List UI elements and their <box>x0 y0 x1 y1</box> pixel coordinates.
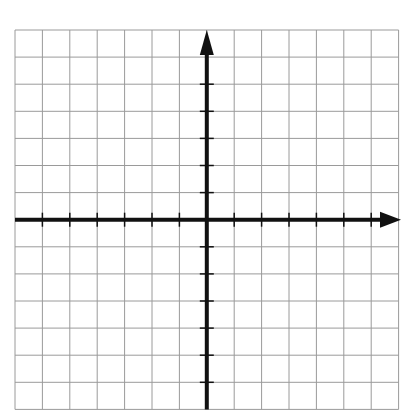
x-axis-arrowhead-icon <box>380 212 401 228</box>
y-axis-arrowhead-icon <box>200 30 214 55</box>
axes <box>15 30 401 409</box>
coordinate-plane <box>0 0 402 414</box>
